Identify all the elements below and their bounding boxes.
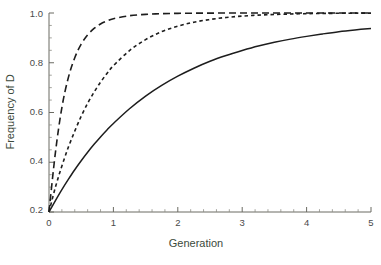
x-axis-title: Generation <box>169 237 223 249</box>
short-dashed-curve <box>49 13 371 212</box>
y-tick-label-0.6: 0.6 <box>30 106 43 117</box>
y-axis-title: Frequency of D <box>4 74 16 149</box>
axis-ticks <box>49 13 371 212</box>
x-tick-label-0: 0 <box>46 217 51 228</box>
long-dashed-curve <box>49 13 371 212</box>
x-tick-label-1: 1 <box>111 217 116 228</box>
y-tick-label-0.8: 0.8 <box>30 57 43 68</box>
x-tick-label-5: 5 <box>368 217 373 228</box>
y-tick-label-1.0: 1.0 <box>30 8 43 19</box>
x-tick-label-4: 4 <box>304 217 309 228</box>
chart-figure: Frequency of D Generation 1.0 0.8 0.6 0.… <box>0 0 381 265</box>
solid-curve <box>49 28 371 212</box>
y-tick-label-0.2: 0.2 <box>30 204 43 215</box>
plot-svg: Frequency of D Generation 1.0 0.8 0.6 0.… <box>0 0 381 265</box>
x-tick-label-3: 3 <box>240 217 245 228</box>
y-tick-label-0.4: 0.4 <box>30 155 43 166</box>
caption-strip <box>0 252 381 265</box>
x-tick-label-2: 2 <box>175 217 180 228</box>
